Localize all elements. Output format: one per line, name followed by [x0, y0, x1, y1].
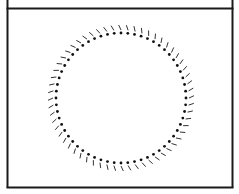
dial-dot	[184, 103, 187, 106]
tick-mark	[188, 81, 192, 84]
dial-dot	[179, 70, 182, 73]
dial-dot	[126, 161, 129, 164]
tick-mark	[63, 138, 66, 143]
tick-mark	[186, 73, 190, 77]
dial-dot	[81, 149, 84, 152]
dial-dot	[183, 83, 186, 86]
dial-dot	[140, 35, 143, 38]
dial-dot	[71, 140, 74, 143]
dial-dot	[163, 145, 166, 148]
tick-mark	[96, 29, 100, 33]
tick-mark	[161, 38, 162, 43]
tick-mark	[114, 166, 116, 171]
tick-mark	[128, 166, 131, 171]
tick-mark	[50, 112, 54, 115]
dial-dot	[140, 158, 143, 161]
dial-dot	[67, 58, 70, 61]
tick-mark	[161, 153, 166, 156]
dial-dot	[185, 97, 188, 100]
dial-dot	[183, 110, 186, 113]
dial-dot	[55, 103, 58, 106]
dial-dot	[181, 77, 184, 80]
tick-mark	[172, 144, 177, 146]
tick-mark	[176, 53, 179, 58]
tick-mark	[186, 118, 191, 119]
dial-dot	[63, 129, 66, 132]
dial-dot	[93, 37, 96, 40]
dial-dot	[55, 97, 58, 100]
tick-mark	[80, 153, 81, 158]
tick-mark	[52, 119, 56, 123]
dial-dot	[100, 158, 103, 161]
tick-mark	[51, 77, 56, 78]
dial-ticks	[48, 25, 194, 171]
dial-dot	[76, 145, 79, 148]
dial-dot	[168, 53, 171, 56]
tick-mark	[134, 26, 135, 31]
tick-mark	[135, 165, 138, 169]
dial-dot	[58, 117, 61, 120]
tick-mark	[121, 166, 123, 171]
dial-dot	[172, 135, 175, 138]
dial-dot	[76, 48, 79, 51]
dial-dot	[168, 140, 171, 143]
tick-mark	[111, 26, 114, 31]
tick-mark	[189, 96, 194, 98]
tick-mark	[104, 27, 107, 31]
tick-mark	[48, 98, 53, 100]
dial-dot	[133, 33, 136, 36]
dial-dot	[146, 156, 149, 159]
tick-mark	[183, 66, 187, 70]
dial-dot	[146, 37, 149, 40]
tick-mark	[155, 34, 156, 39]
dial-dot	[176, 64, 179, 67]
dial-dot	[60, 70, 63, 73]
tick-mark	[119, 25, 121, 30]
tick-mark	[76, 40, 81, 43]
tick-mark	[100, 163, 101, 168]
tick-mark	[49, 84, 54, 85]
dial-dot	[67, 135, 70, 138]
dial-dot	[87, 40, 90, 43]
dial-dot	[163, 48, 166, 51]
dial-dot	[55, 90, 58, 93]
dial-dot	[58, 77, 61, 80]
tick-mark	[74, 149, 76, 154]
dial-dot	[158, 44, 161, 47]
tick-mark	[172, 47, 174, 52]
tick-mark	[180, 132, 185, 133]
dial-dot	[120, 32, 123, 35]
dial-dot	[120, 162, 123, 165]
tick-mark	[142, 163, 146, 167]
dial-dot	[56, 110, 59, 113]
tick-mark	[83, 36, 87, 39]
dial-dot	[181, 117, 184, 120]
dial-dot	[152, 40, 155, 43]
dial-dot	[87, 153, 90, 156]
diagram-canvas	[0, 0, 239, 194]
tick-mark	[167, 149, 172, 151]
dial-dot	[113, 161, 116, 164]
tick-mark	[59, 132, 62, 136]
dial-dot	[106, 160, 109, 163]
dial-dot	[81, 44, 84, 47]
dial-dot	[126, 32, 129, 35]
tick-mark	[61, 57, 66, 58]
dial-dot	[93, 156, 96, 159]
dial-dot	[56, 83, 59, 86]
tick-mark	[87, 157, 88, 162]
dial-dot	[113, 32, 116, 35]
dial-dot	[100, 35, 103, 38]
tick-mark	[189, 88, 194, 91]
tick-mark	[188, 111, 193, 112]
tick-mark	[180, 60, 183, 64]
tick-mark	[68, 144, 70, 149]
dial-dot	[152, 153, 155, 156]
dial-dot	[172, 58, 175, 61]
tick-mark	[126, 25, 128, 30]
dial-dot	[176, 129, 179, 132]
dial-dot	[158, 149, 161, 152]
tick-mark	[55, 126, 59, 130]
dial-dots	[55, 32, 188, 165]
tick-mark	[65, 51, 70, 53]
